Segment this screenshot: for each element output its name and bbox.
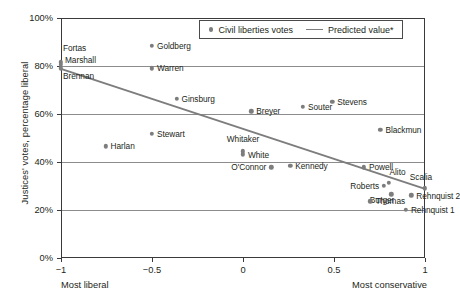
data-point-label: Souter bbox=[308, 102, 332, 112]
x-axis-tick-mark bbox=[334, 258, 335, 262]
x-axis-tick-label: −0.5 bbox=[143, 265, 161, 275]
data-point bbox=[409, 193, 413, 197]
data-point-label: Alito bbox=[390, 167, 406, 177]
data-point bbox=[269, 165, 273, 169]
data-point-label: Kennedy bbox=[295, 161, 327, 171]
data-point-label: Fortas bbox=[63, 43, 86, 53]
data-point-label: Goldberg bbox=[157, 41, 191, 51]
data-point bbox=[362, 165, 366, 169]
x-axis-left-end-label: Most liberal bbox=[61, 280, 109, 290]
y-axis-tick-label: 100% bbox=[13, 13, 53, 23]
data-point bbox=[382, 184, 386, 188]
y-axis-title: Justices' votes, percentage liberal bbox=[20, 13, 30, 253]
data-point-label: Stevens bbox=[337, 97, 367, 107]
data-point-label: Brennan bbox=[63, 71, 94, 81]
data-point-label: Thomas bbox=[375, 196, 405, 206]
data-point-label: Ginsburg bbox=[182, 94, 215, 104]
data-point bbox=[330, 99, 334, 103]
x-axis-tick-mark bbox=[152, 258, 153, 262]
data-point bbox=[150, 43, 154, 47]
y-axis-tick-label: 60% bbox=[13, 109, 53, 119]
legend-label-predicted-value: Predicted value* bbox=[328, 25, 394, 35]
data-point bbox=[150, 131, 154, 135]
legend-item-predicted-value: Predicted value* bbox=[306, 25, 394, 35]
data-point-label: Rehnquist 1 bbox=[411, 205, 455, 215]
data-point bbox=[59, 66, 63, 70]
data-point bbox=[378, 127, 382, 131]
data-point bbox=[174, 97, 178, 101]
x-axis-tick-label: 1 bbox=[422, 265, 427, 275]
data-point bbox=[301, 105, 305, 109]
data-point-label: Whitaker bbox=[227, 134, 259, 144]
data-point bbox=[404, 208, 408, 212]
x-axis-right-end-label: Most conservative bbox=[352, 280, 427, 290]
data-point bbox=[241, 152, 245, 156]
data-point bbox=[423, 186, 427, 190]
x-axis-tick-label: 0 bbox=[240, 265, 245, 275]
legend-dot-icon bbox=[209, 27, 213, 31]
y-axis-tick-label: 40% bbox=[13, 157, 53, 167]
data-point-label: Harlan bbox=[111, 141, 135, 151]
data-points-layer: FortasMarshallBrennanGoldbergWarrenGinsb… bbox=[61, 18, 425, 258]
legend-item-civil-liberties-votes: Civil liberties votes bbox=[209, 25, 293, 35]
data-point bbox=[103, 144, 107, 148]
legend-label-civil-liberties-votes: Civil liberties votes bbox=[218, 25, 293, 35]
data-point bbox=[288, 163, 292, 167]
x-axis-tick-label: 0.5 bbox=[328, 265, 341, 275]
x-axis-tick-label: −1 bbox=[56, 265, 67, 275]
x-axis-tick-mark bbox=[243, 258, 244, 262]
x-axis-tick-mark bbox=[61, 258, 62, 262]
y-axis-tick-label: 20% bbox=[13, 205, 53, 215]
data-point-label: White bbox=[248, 150, 269, 160]
data-point bbox=[150, 66, 154, 70]
data-point-label: Roberts bbox=[350, 181, 379, 191]
y-axis-tick-label: 0% bbox=[13, 253, 53, 263]
data-point-label: Scalia bbox=[410, 172, 432, 182]
chart-legend: Civil liberties votes Predicted value* bbox=[199, 20, 403, 39]
data-point-label: Warren bbox=[157, 63, 184, 73]
data-point-label: Breyer bbox=[256, 106, 280, 116]
x-axis-tick-mark bbox=[425, 258, 426, 262]
data-point bbox=[386, 181, 390, 185]
data-point-label: O'Connor bbox=[231, 162, 266, 172]
data-point-label: Rehnquist 2 bbox=[416, 191, 460, 201]
legend-line-icon bbox=[306, 29, 323, 31]
data-point-label: Stewart bbox=[157, 129, 185, 139]
data-point bbox=[249, 109, 253, 113]
y-axis-tick-label: 80% bbox=[13, 61, 53, 71]
data-point-label: Marshall bbox=[65, 55, 96, 65]
data-point-label: Blackmun bbox=[385, 125, 421, 135]
